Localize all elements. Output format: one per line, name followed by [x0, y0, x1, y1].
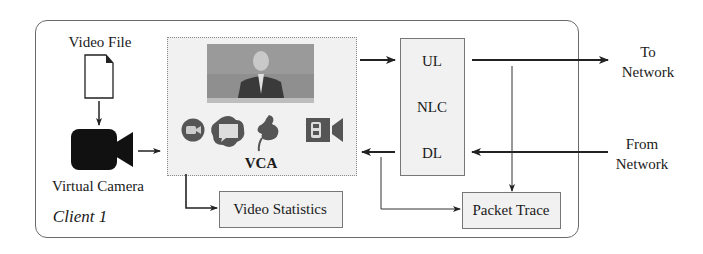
virtual-camera-label: Virtual Camera — [52, 178, 144, 195]
dl-label: DL — [422, 145, 442, 162]
arrow-vca-to-video-statistics — [186, 174, 217, 208]
packet-trace-label: Packet Trace — [472, 202, 549, 219]
teams-icon — [258, 115, 279, 151]
to-network-label-line1: To — [640, 44, 656, 61]
from-network-label-line2: Network — [616, 156, 669, 173]
nlc-label: NLC — [417, 99, 447, 116]
vca-label: VCA — [245, 155, 278, 172]
client-label: Client 1 — [53, 207, 107, 227]
arrow-dl-tap-to-packet-trace — [381, 157, 460, 209]
video-statistics-label: Video Statistics — [233, 201, 327, 218]
meet-icon — [306, 118, 343, 142]
ul-label: UL — [422, 53, 442, 70]
webex-icon — [211, 116, 244, 147]
zoom-icon — [182, 119, 205, 142]
to-network-label-line2: Network — [622, 64, 675, 81]
file-icon — [85, 55, 113, 98]
video-file-label: Video File — [69, 34, 132, 51]
video-camera-icon — [71, 129, 133, 170]
from-network-label-line1: From — [626, 136, 659, 153]
